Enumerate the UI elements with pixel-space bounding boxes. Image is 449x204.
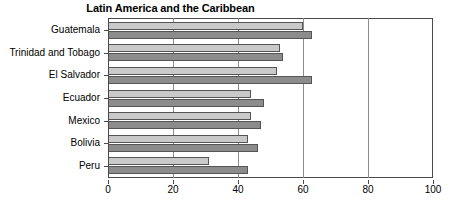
x-tick-label-80: 80 [362, 184, 373, 195]
y-tick-mark [104, 98, 108, 99]
y-axis-label-0: Guatemala [0, 19, 104, 42]
x-tick-label-100: 100 [425, 184, 442, 195]
bar-dark [109, 31, 312, 39]
chart-container: Latin America and the Caribbean Guatemal… [0, 0, 449, 204]
y-tick-mark [104, 121, 108, 122]
y-tick-mark [104, 166, 108, 167]
bar-dark [109, 99, 264, 107]
bar-row [109, 42, 432, 65]
bar-row [109, 109, 432, 132]
y-tick-mark [104, 143, 108, 144]
y-tick-mark [104, 53, 108, 54]
plot-area [108, 18, 433, 178]
y-tick-mark [104, 75, 108, 76]
x-axis-tick-labels: 020406080100 [108, 180, 433, 196]
bar-dark [109, 53, 283, 61]
y-axis-label-5: Bolivia [0, 132, 104, 155]
bar-row [109, 154, 432, 177]
bar-light [109, 67, 277, 75]
x-tick-label-60: 60 [297, 184, 308, 195]
bar-dark [109, 76, 312, 84]
bar-light [109, 112, 251, 120]
y-tick-mark [104, 30, 108, 31]
chart-title: Latin America and the Caribbean [0, 2, 395, 14]
bar-light [109, 22, 303, 30]
bar-row [109, 87, 432, 110]
bar-light [109, 90, 251, 98]
y-axis-label-4: Mexico [0, 109, 104, 132]
y-axis-label-2: El Salvador [0, 64, 104, 87]
bar-dark [109, 144, 258, 152]
bar-row [109, 64, 432, 87]
x-tick-label-40: 40 [232, 184, 243, 195]
bar-light [109, 157, 209, 165]
bar-dark [109, 166, 248, 174]
x-tick-label-20: 20 [167, 184, 178, 195]
bar-dark [109, 121, 261, 129]
bar-light [109, 44, 280, 52]
bar-rows [109, 19, 432, 177]
x-tick-label-0: 0 [105, 184, 111, 195]
bar-row [109, 19, 432, 42]
bar-light [109, 135, 248, 143]
y-axis-label-6: Peru [0, 154, 104, 177]
y-axis-category-labels: Guatemala Trinidad and Tobago El Salvado… [0, 19, 104, 177]
bar-row [109, 132, 432, 155]
y-axis-label-1: Trinidad and Tobago [0, 42, 104, 65]
y-axis-label-3: Ecuador [0, 87, 104, 110]
